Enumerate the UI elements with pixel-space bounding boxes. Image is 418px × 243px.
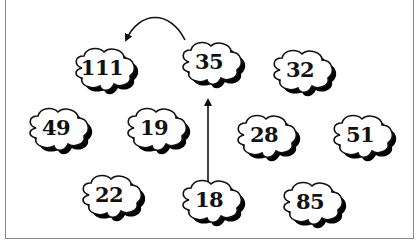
cloud-number-label: 49: [22, 104, 90, 150]
number-cloud-35: 35: [175, 38, 249, 90]
number-cloud-18: 18: [175, 176, 249, 228]
diagram-canvas: 111 35 32 49 19 28: [0, 0, 418, 243]
arrow-35-to-111: [126, 18, 185, 41]
cloud-number-label: 18: [175, 176, 243, 222]
number-cloud-28: 28: [230, 111, 304, 163]
cloud-number-label: 28: [230, 111, 298, 157]
number-cloud-19: 19: [120, 104, 194, 156]
cloud-number-label: 51: [326, 111, 394, 157]
cloud-number-label: 111: [68, 44, 136, 90]
number-cloud-32: 32: [266, 46, 340, 98]
cloud-number-label: 19: [120, 104, 188, 150]
cloud-number-label: 22: [75, 171, 143, 217]
cloud-number-label: 35: [175, 38, 243, 84]
number-cloud-85: 85: [276, 178, 350, 230]
number-cloud-49: 49: [22, 104, 96, 156]
cloud-number-label: 32: [266, 46, 334, 92]
number-cloud-111: 111: [68, 44, 142, 96]
number-cloud-22: 22: [75, 171, 149, 223]
number-cloud-51: 51: [326, 111, 400, 163]
cloud-number-label: 85: [276, 178, 344, 224]
